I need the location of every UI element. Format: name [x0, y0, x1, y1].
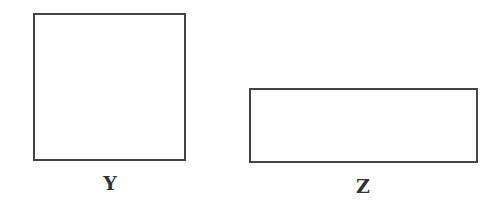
label-z: Z	[343, 175, 383, 197]
rectangle-z	[249, 88, 478, 163]
square-y	[33, 13, 186, 161]
label-y: Y	[90, 172, 130, 194]
